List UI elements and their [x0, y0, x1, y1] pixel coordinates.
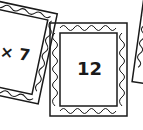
right-frame: [132, 0, 143, 90]
frames-illustration: [0, 0, 143, 130]
left-frame-text: × 7: [0, 42, 31, 65]
center-frame-text: 12: [77, 58, 102, 79]
